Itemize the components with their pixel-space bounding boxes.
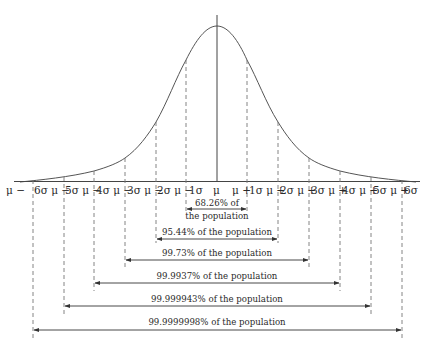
interval-label-5sigma: 99.999943% of the population [151, 294, 283, 304]
axis-label: 2σ μ − [157, 184, 193, 196]
axis-label: μ − [6, 184, 25, 196]
interval-label-1sigma-line2: the population [185, 211, 249, 221]
interval-label-3sigma: 99.73% of the population [162, 248, 272, 258]
axis-labels: μ − 6σ μ − 5σ μ − 4σ μ − 3σ μ − 2σ μ − 1… [6, 184, 418, 196]
interval-label-2sigma: 95.44% of the population [162, 227, 272, 237]
interval-label-1sigma-line1: 68.26% of [195, 198, 240, 208]
normal-distribution-diagram: μ − 6σ μ − 5σ μ − 4σ μ − 3σ μ − 2σ μ − 1… [0, 0, 432, 350]
interval-label-6sigma: 99.9999998% of the population [148, 317, 286, 327]
diagram-canvas: μ − 6σ μ − 5σ μ − 4σ μ − 3σ μ − 2σ μ − 1… [0, 0, 432, 350]
axis-label: μ [213, 184, 220, 196]
axis-label: 6σ [404, 184, 418, 196]
interval-labels: 68.26% of the population 95.44% of the p… [148, 198, 286, 327]
axis-label: 1σ [189, 184, 203, 196]
interval-label-4sigma: 99.9937% of the population [157, 271, 278, 281]
bell-curve [20, 26, 416, 182]
